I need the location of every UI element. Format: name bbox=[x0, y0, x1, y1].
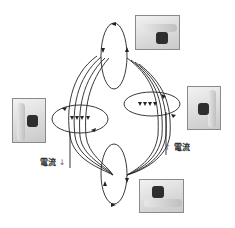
bottom-loop bbox=[101, 144, 127, 204]
hand-photo-bottom-right bbox=[139, 179, 184, 213]
hand-photo-top-right bbox=[135, 15, 180, 50]
top-loop bbox=[101, 23, 127, 89]
diagram-canvas: 電流 ↓ ↑ 電流 bbox=[0, 0, 235, 228]
hand-photo-left bbox=[12, 98, 46, 143]
current-text: 電流 bbox=[40, 158, 56, 167]
down-arrow-icon: ↓ bbox=[59, 158, 66, 167]
up-arrow-icon: ↑ bbox=[164, 143, 171, 152]
hand-photo-right bbox=[187, 86, 221, 130]
right-loop bbox=[124, 92, 180, 116]
current-label-left: 電流 ↓ bbox=[40, 158, 66, 168]
current-label-right: ↑ 電流 bbox=[164, 143, 190, 153]
current-text: 電流 bbox=[174, 143, 190, 152]
